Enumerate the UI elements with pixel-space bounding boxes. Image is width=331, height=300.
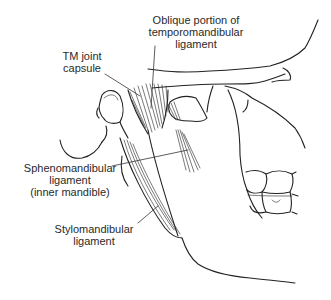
leader-lines [105,46,188,223]
articular-eminence [169,86,213,122]
oblique-ligament-fibers [128,84,168,134]
label-line: (inner mandible) [24,186,116,198]
label-sphenomandibular-ligament: Sphenomandibular ligament (inner mandibl… [24,162,116,198]
label-line: Oblique portion of [149,14,244,26]
label-stylomandibular-ligament: Stylomandibular ligament [55,223,134,247]
label-oblique-portion-tm-ligament: Oblique portion of temporomandibular lig… [149,14,244,50]
mandible [182,86,305,283]
label-line: ligament [24,174,116,186]
sphenomandibular-ligament [176,130,200,172]
label-line: Sphenomandibular [24,162,116,174]
label-line: Stylomandibular [55,223,134,235]
stylomandibular-ligament [120,130,182,238]
molar-teeth [246,171,298,214]
label-line: capsule [62,62,101,74]
auditory-meatus [60,91,128,159]
label-line: ligament [149,38,244,50]
label-line: TM joint [62,50,101,62]
label-line: temporomandibular [149,26,244,38]
label-line: ligament [55,235,134,247]
label-tm-joint-capsule: TM joint capsule [62,50,101,74]
